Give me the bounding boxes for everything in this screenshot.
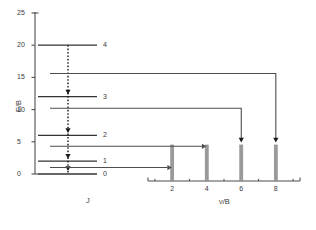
dashed-arrow-head [65, 154, 70, 159]
transition-connector [50, 74, 276, 141]
dashed-arrow-head [65, 166, 70, 171]
energy-axis-tick-label: 15 [17, 73, 25, 80]
dashed-arrow-head [65, 128, 70, 133]
dashed-arrow-head [65, 90, 70, 95]
energy-axis-title: E/B [14, 100, 23, 112]
energy-level-label: 4 [103, 41, 107, 48]
energy-level-spectrum-diagram [0, 0, 316, 230]
energy-axis-tick-label: 5 [17, 138, 21, 145]
spectrum-peak [274, 145, 277, 181]
energy-axis-tick-label: 25 [17, 9, 25, 16]
level-axis-title: J [86, 196, 90, 205]
spectrum-peak [240, 145, 243, 181]
energy-level-label: 2 [103, 131, 107, 138]
energy-level-label: 1 [103, 157, 107, 164]
spectrum-axis-title: ν/B [219, 197, 230, 206]
transition-arrow-head [273, 138, 278, 143]
energy-level-label: 0 [103, 170, 107, 177]
transition-arrow-head [239, 138, 244, 143]
spectrum-axis-tick-label: 4 [205, 185, 209, 192]
spectrum-axis-tick-label: 8 [274, 185, 278, 192]
spectrum-peak [171, 145, 174, 181]
spectrum-axis-tick-label: 6 [239, 185, 243, 192]
spectrum-axis-tick-label: 2 [170, 185, 174, 192]
transition-connector [50, 108, 241, 141]
energy-level-label: 3 [103, 93, 107, 100]
figure-container [0, 0, 316, 230]
spectrum-peak [205, 145, 208, 181]
energy-axis-tick-label: 20 [17, 41, 25, 48]
energy-axis-tick-label: 0 [17, 170, 21, 177]
